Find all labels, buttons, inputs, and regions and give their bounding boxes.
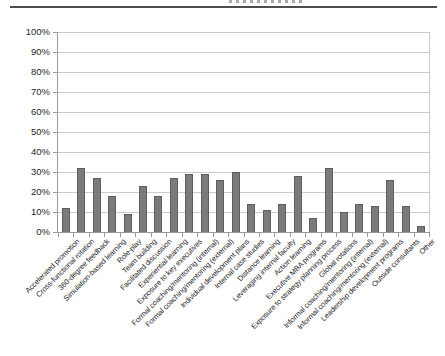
y-tick-70 bbox=[53, 92, 58, 93]
gridline-70 bbox=[58, 92, 429, 93]
y-tick-90 bbox=[53, 52, 58, 53]
y-tick-100 bbox=[53, 32, 58, 33]
bar-formal-coaching-mentoring-internal bbox=[201, 174, 209, 232]
bar-accelerated-promotion bbox=[62, 208, 70, 232]
bar-outside-consultants bbox=[402, 206, 410, 232]
gridline-90 bbox=[58, 52, 429, 53]
y-tick-50 bbox=[53, 132, 58, 133]
y-tick-label-90: 90% bbox=[0, 46, 50, 58]
y-tick-20 bbox=[53, 192, 58, 193]
y-tick-label-70: 70% bbox=[0, 86, 50, 98]
y-tick-40 bbox=[53, 152, 58, 153]
bar-facilitated-discussion bbox=[154, 196, 162, 232]
bar-informal-coaching-mentoring-internal bbox=[355, 204, 363, 232]
cropped-header-text-fragment bbox=[229, 0, 305, 3]
bar-role-play bbox=[124, 214, 132, 232]
y-tick-label-60: 60% bbox=[0, 106, 50, 118]
bar-exposure-to-key-executives bbox=[185, 174, 193, 232]
y-tick-60 bbox=[53, 112, 58, 113]
bar-informal-coaching-mentoring-external bbox=[371, 206, 379, 232]
bar-cross-functional-rotation bbox=[77, 168, 85, 232]
bar-global-rotations bbox=[340, 212, 348, 232]
gridline-30 bbox=[58, 172, 429, 173]
bar-individual-development-plans bbox=[232, 172, 240, 232]
bar-experiential-learning bbox=[170, 178, 178, 232]
bar-exposure-to-strategy-planning-process bbox=[325, 168, 333, 232]
y-tick-label-40: 40% bbox=[0, 146, 50, 158]
y-tick-30 bbox=[53, 172, 58, 173]
gridline-100 bbox=[58, 32, 429, 33]
plot-area bbox=[57, 32, 430, 233]
header-divider bbox=[10, 6, 437, 8]
y-tick-label-0: 0% bbox=[0, 226, 50, 238]
gridline-60 bbox=[58, 112, 429, 113]
bar-action-learning bbox=[294, 176, 302, 232]
bar-360-degree-feedback bbox=[93, 178, 101, 232]
gridline-50 bbox=[58, 132, 429, 133]
bar-formal-coaching-mentoring-external bbox=[216, 180, 224, 232]
y-tick-label-30: 30% bbox=[0, 166, 50, 178]
bar-leveraging-internal-faculty bbox=[278, 204, 286, 232]
y-tick-label-50: 50% bbox=[0, 126, 50, 138]
gridline-20 bbox=[58, 192, 429, 193]
bar-simulation-based-learning bbox=[108, 196, 116, 232]
bar-executive-mba-programs bbox=[309, 218, 317, 232]
page: 0%10%20%30%40%50%60%70%80%90%100% Accele… bbox=[0, 0, 445, 356]
bar-team-building bbox=[139, 186, 147, 232]
y-tick-label-100: 100% bbox=[0, 26, 50, 38]
gridline-40 bbox=[58, 152, 429, 153]
bar-leadership-development-programs bbox=[386, 180, 394, 232]
y-tick-10 bbox=[53, 212, 58, 213]
bar-internal-case-studies bbox=[247, 204, 255, 232]
x-tick-0 bbox=[58, 232, 59, 237]
x-label-other: Other bbox=[417, 237, 436, 256]
gridline-80 bbox=[58, 72, 429, 73]
bar-other bbox=[417, 226, 425, 232]
y-tick-80 bbox=[53, 72, 58, 73]
y-tick-label-80: 80% bbox=[0, 66, 50, 78]
y-tick-label-10: 10% bbox=[0, 206, 50, 218]
y-tick-label-20: 20% bbox=[0, 186, 50, 198]
bar-distance-learning bbox=[263, 210, 271, 232]
